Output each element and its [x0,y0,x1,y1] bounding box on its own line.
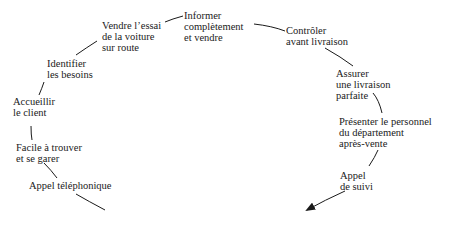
step-label: et se garer [16,153,82,164]
service-cycle-diagram: Appel téléphonique Facile à trouver et s… [0,0,450,226]
step-accueillir: Accueillir le client [13,96,55,118]
connector-start [76,194,105,210]
step-presenter: Présenter le personnel du département ap… [339,116,432,149]
step-label: parfaite [336,90,391,101]
step-label: Assurer [336,68,391,79]
connector-presenter-suivi [369,150,378,166]
step-label: Informer [184,10,243,21]
step-label: Contrôler [286,25,348,36]
step-label: du département [339,127,432,138]
step-controler: Contrôler avant livraison [286,25,348,47]
step-identifier: Identifier les besoins [47,58,93,80]
step-label: sur route [102,42,161,53]
step-label: Facile à trouver [16,142,82,153]
step-label: et vendre [184,32,243,43]
step-appel-suivi: Appel de suivi [340,170,373,192]
connector-accueillir-facile [31,126,32,140]
connector-controler-assurer [325,48,353,66]
step-label: après-vente [339,138,432,149]
connector-suivi-end [307,191,345,210]
step-label: une livraison [336,79,391,90]
step-label: Accueillir [13,96,55,107]
step-label: Appel téléphonique [29,180,112,191]
step-label: de la voiture [102,31,161,42]
step-facile-a-trouver: Facile à trouver et se garer [16,142,82,164]
step-label: Présenter le personnel [339,116,432,127]
step-label: Vendre l’essai [102,20,161,31]
connector-identifier-accueillir [39,82,44,95]
connector-informer-vendre [165,16,183,22]
connector-informer-controler [254,24,285,31]
step-label: le client [13,107,55,118]
step-assurer: Assurer une livraison parfaite [336,68,391,101]
step-label: complètement [184,21,243,32]
connector-vendre-identifier [76,41,97,55]
step-vendre-essai: Vendre l’essai de la voiture sur route [102,20,161,53]
step-informer: Informer complètement et vendre [184,10,243,43]
step-appel-telephonique: Appel téléphonique [29,180,112,191]
step-label: Appel [340,170,373,181]
connector-facile-appel [44,163,57,178]
step-label: de suivi [340,181,373,192]
step-label: Identifier [47,58,93,69]
step-label: les besoins [47,69,93,80]
step-label: avant livraison [286,36,348,47]
